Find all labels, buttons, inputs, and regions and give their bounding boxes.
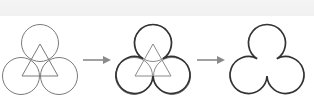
step-3-trefoil [230,25,304,94]
step-2-emphasized-outline [116,25,191,95]
trefoil-construction-diagram [0,0,314,103]
triangle [135,44,171,76]
triangle [22,44,58,76]
step-1-circles-and-triangle [3,25,78,95]
trefoil-shape [230,25,304,94]
